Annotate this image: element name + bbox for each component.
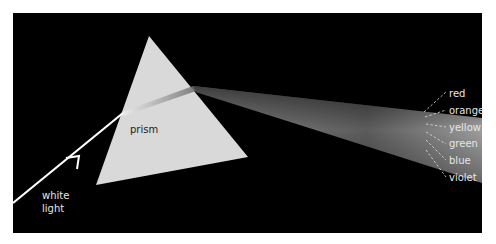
label-blue: blue [449, 155, 471, 166]
prism-label: prism [130, 124, 158, 135]
label-red: red [449, 88, 465, 99]
label-green: green [449, 138, 478, 149]
label-violet: violet [449, 172, 477, 183]
label-orange: orange [449, 105, 484, 116]
white-light-label-line2: light [42, 203, 64, 214]
white-light-label-line1: white [42, 190, 69, 201]
label-yellow: yellow [449, 122, 481, 133]
prism-dispersion-diagram: prism white light red orange yellow gree… [0, 0, 496, 244]
